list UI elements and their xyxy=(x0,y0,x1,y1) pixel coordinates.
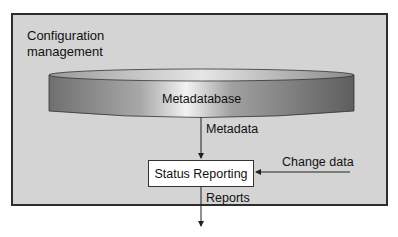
diagram-graphics xyxy=(0,0,398,237)
status-reporting-process: Status Reporting xyxy=(148,160,254,187)
change-data-flow-label: Change data xyxy=(282,155,354,169)
reports-flow-label: Reports xyxy=(206,191,250,205)
metadata-flow-label: Metadata xyxy=(206,122,258,136)
process-label: Status Reporting xyxy=(154,167,247,181)
database-label: Metadatabase xyxy=(162,92,241,106)
